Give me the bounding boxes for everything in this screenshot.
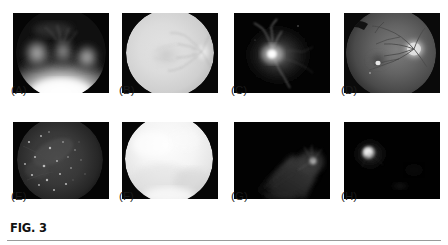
fundus-graphic-a <box>13 13 109 93</box>
figure-3-container: (A) <box>0 0 448 245</box>
fundus-graphic-h <box>344 122 440 199</box>
panel-grid: (A) <box>0 0 448 212</box>
fundus-graphic-b <box>122 13 218 93</box>
fundus-graphic-f <box>122 122 218 199</box>
fundus-image-f <box>122 122 218 199</box>
fundus-image-e <box>13 122 109 199</box>
panel-label-c: (C) <box>231 84 247 97</box>
panel-label-f: (F) <box>119 190 134 203</box>
fundus-image-d <box>344 13 440 93</box>
fundus-image-h <box>344 122 440 199</box>
fundus-image-c <box>234 13 330 93</box>
figure-panel-d: (D) <box>344 13 440 93</box>
fundus-graphic-g <box>234 122 330 199</box>
fundus-image-b <box>122 13 218 93</box>
fundus-graphic-c <box>234 13 330 93</box>
figure-panel-g: (G) <box>234 122 330 199</box>
panel-label-d: (D) <box>341 84 357 97</box>
fundus-graphic-d <box>344 13 440 93</box>
panel-label-h: (H) <box>341 190 357 203</box>
figure-divider-rule <box>7 240 441 241</box>
panel-label-e: (E) <box>11 190 27 203</box>
figure-caption: FIG. 3 <box>10 222 47 235</box>
figure-panel-a: (A) <box>13 13 109 93</box>
fundus-image-g <box>234 122 330 199</box>
figure-panel-f: (F) <box>122 122 218 199</box>
figure-panel-e: (E) <box>13 122 109 199</box>
figure-panel-b: (B) <box>122 13 218 93</box>
figure-panel-c: (C) <box>234 13 330 93</box>
figure-panel-h: (H) <box>344 122 440 199</box>
fundus-graphic-e <box>13 122 109 199</box>
fundus-image-a <box>13 13 109 93</box>
panel-label-b: (B) <box>119 84 135 97</box>
panel-label-g: (G) <box>231 190 248 203</box>
panel-label-a: (A) <box>11 84 27 97</box>
